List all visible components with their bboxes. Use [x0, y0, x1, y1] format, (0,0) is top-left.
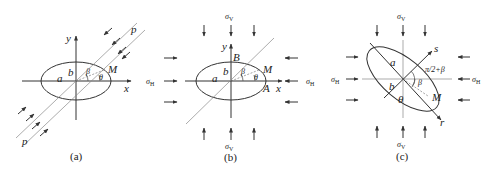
point-B-label: B	[233, 51, 240, 63]
theta-label: θ	[398, 93, 404, 105]
semi-axis-a-label: a	[57, 72, 63, 84]
point-M-label: M	[107, 63, 118, 75]
load-arrow	[104, 28, 112, 35]
sigma-h-left-label: σH	[331, 75, 340, 85]
r-axis-label: r	[440, 116, 445, 128]
sigma-h-left-label: σH	[146, 77, 155, 87]
point-M-label: M	[431, 91, 442, 103]
semi-axis-b-label: b	[223, 65, 229, 77]
semi-axis-a-label: a	[212, 72, 218, 84]
angle-pi2-beta-label: π/2+β	[425, 65, 445, 74]
load-p-bottom-label: p	[21, 135, 28, 147]
load-arrow	[118, 47, 126, 54]
caption-c: (c)	[396, 150, 409, 163]
load-arrow	[18, 107, 26, 114]
y-axis-label: y	[221, 40, 227, 52]
sigma-v-top-label: σV	[397, 12, 406, 22]
radius-to-M	[403, 79, 428, 96]
x-axis-label: x	[275, 82, 281, 94]
caption-a: (a)	[70, 150, 83, 163]
semi-axis-b-label: b	[68, 66, 74, 78]
theta-label: θ	[254, 73, 258, 82]
load-arrow	[32, 122, 40, 129]
r-axis	[370, 43, 441, 120]
beta-label: β	[85, 67, 90, 76]
theta-label: θ	[99, 73, 103, 82]
point-A-label: A	[262, 82, 270, 94]
sigma-h-right-label: σH	[472, 75, 481, 85]
caption-b: (b)	[224, 151, 237, 164]
load-arrow	[40, 129, 48, 136]
panel-b: y x a b B M A β θ σV σV σH σH (b)	[146, 12, 315, 164]
figure-canvas: y x a b M β θ p p (a) y x	[0, 0, 486, 171]
panel-c: a b θ M β π/2+β s r σV σV σH σH (c)	[331, 12, 481, 163]
beta-label: β	[417, 78, 422, 87]
load-arrow	[26, 114, 34, 121]
beta-label: β	[240, 67, 245, 76]
panel-a: y x a b M β θ p p (a)	[16, 23, 145, 163]
sigma-v-bottom-label: σV	[397, 140, 406, 150]
y-axis-label: y	[65, 32, 71, 44]
s-axis-label: s	[434, 42, 438, 54]
semi-axis-a-label: a	[390, 56, 396, 68]
load-arrow	[112, 38, 120, 45]
sigma-v-top-label: σV	[225, 12, 234, 22]
sigma-h-right-label: σH	[306, 77, 315, 87]
semi-axis-b-label: b	[389, 80, 395, 92]
load-p-top-label: p	[130, 23, 137, 35]
theta-arc	[412, 79, 415, 87]
load-arrow	[122, 52, 130, 59]
x-axis-label: x	[123, 82, 129, 94]
point-M-label: M	[262, 63, 273, 75]
